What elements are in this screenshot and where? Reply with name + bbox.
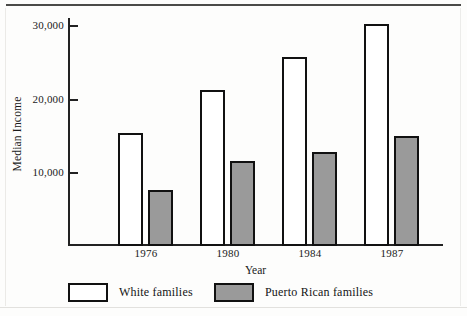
- legend-label-white-families: White families: [119, 285, 193, 300]
- legend-item-puerto-rican-families: Puerto Rican families: [214, 281, 373, 303]
- legend-item-white-families: White families: [68, 281, 193, 303]
- plot-area: 30,000 20,000 10,000 Median Income 1976 …: [0, 0, 467, 316]
- chart-figure: 30,000 20,000 10,000 Median Income 1976 …: [0, 0, 467, 316]
- legend-swatch-white-icon: [68, 283, 108, 302]
- bar-white-1976: [118, 133, 143, 246]
- x-tick-label-1976: 1976: [116, 247, 176, 259]
- y-tick-20000: [70, 99, 78, 101]
- x-tick-label-1987: 1987: [362, 247, 422, 259]
- y-tick-label-30000: 30,000: [2, 19, 64, 31]
- bar-white-1980: [200, 90, 225, 246]
- chart-legend: White families Puerto Rican families: [68, 281, 448, 307]
- legend-label-puerto-rican-families: Puerto Rican families: [265, 285, 373, 300]
- bar-white-1984: [282, 57, 307, 246]
- y-axis-line: [68, 18, 70, 246]
- x-tick-label-1980: 1980: [198, 247, 258, 259]
- bar-puerto-rican-1976: [148, 190, 173, 246]
- x-axis-title: Year: [68, 264, 443, 276]
- y-tick-30000: [70, 25, 78, 27]
- bar-puerto-rican-1984: [312, 152, 337, 246]
- y-tick-10000: [70, 172, 78, 174]
- bar-puerto-rican-1980: [230, 161, 255, 246]
- bar-puerto-rican-1987: [394, 136, 419, 246]
- x-tick-label-1984: 1984: [280, 247, 340, 259]
- legend-swatch-gray-icon: [214, 283, 254, 302]
- bar-white-1987: [364, 24, 389, 246]
- y-axis-title: Median Income: [11, 79, 23, 189]
